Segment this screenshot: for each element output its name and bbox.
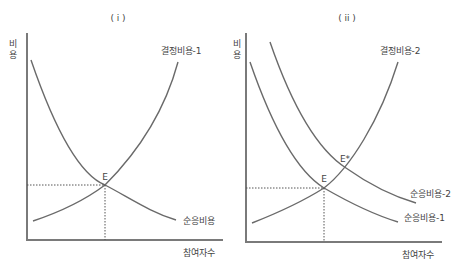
curve-label: 결정비용-2 — [380, 46, 421, 56]
decreasing-curve-2 — [270, 42, 416, 203]
panel-ii: ( ii ) 비 용 참여자수 결정비용-2 순응비용-2 순응비용-1 E E… — [233, 13, 451, 260]
equilibrium-label-star: E* — [340, 154, 351, 164]
cost-diagram: ( i ) 비 용 참여자수 결정비용-1 순응비용 E ( ii ) 비 용 … — [0, 0, 467, 270]
panel-title: ( ii ) — [338, 13, 356, 23]
curve-label: 결정비용-1 — [161, 46, 202, 56]
y-axis-label-1: 비 — [233, 39, 241, 49]
y-axis-label-1: 비 — [9, 39, 17, 49]
curve-label: 순응비용-2 — [410, 189, 451, 199]
equilibrium-label: E — [102, 172, 108, 182]
increasing-curve — [252, 62, 398, 223]
panel-i: ( i ) 비 용 참여자수 결정비용-1 순응비용 E — [9, 13, 223, 258]
panel-title: ( i ) — [110, 13, 125, 23]
x-axis-label: 참여자수 — [402, 249, 434, 260]
y-axis-label-2: 용 — [233, 50, 241, 60]
curve-label: 순응비용 — [183, 216, 215, 226]
x-axis-label: 참여자수 — [183, 247, 215, 258]
equilibrium-label: E — [321, 174, 327, 184]
y-axis-label-2: 용 — [9, 50, 17, 60]
decreasing-curve — [31, 60, 176, 220]
curve-label: 순응비용-1 — [404, 213, 445, 223]
